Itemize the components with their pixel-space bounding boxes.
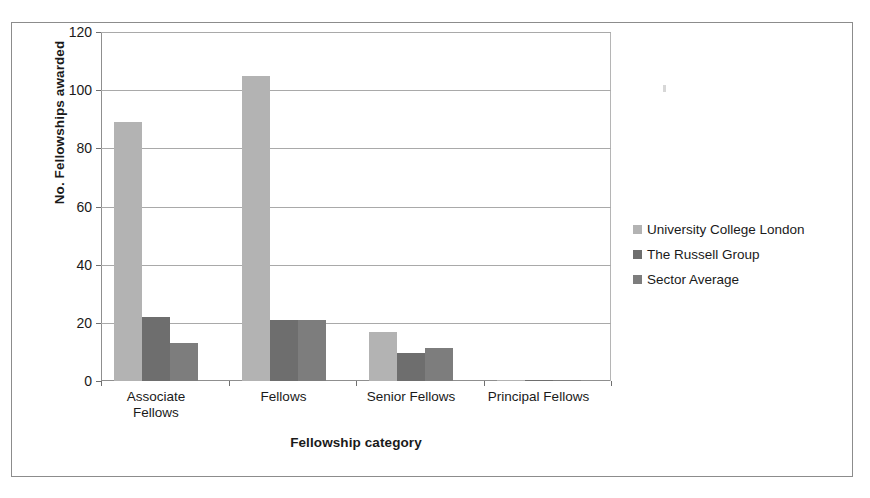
y-tick-label: 100 bbox=[69, 82, 92, 98]
bar bbox=[525, 380, 553, 382]
bar bbox=[553, 380, 581, 382]
y-tick-mark bbox=[96, 90, 101, 91]
y-tick-mark bbox=[96, 323, 101, 324]
y-tick-mark bbox=[96, 148, 101, 149]
x-tick-mark bbox=[484, 381, 485, 386]
legend-swatch bbox=[633, 225, 642, 234]
y-tick-label: 80 bbox=[76, 140, 92, 156]
gridline bbox=[101, 323, 611, 324]
x-category-label: Principal Fellows bbox=[488, 389, 589, 405]
bar bbox=[369, 332, 397, 381]
legend-item: University College London bbox=[633, 217, 805, 242]
legend-item: The Russell Group bbox=[633, 242, 805, 267]
bar bbox=[270, 320, 298, 381]
x-tick-mark bbox=[101, 381, 102, 386]
x-tick-mark bbox=[356, 381, 357, 386]
x-axis-title: Fellowship category bbox=[101, 435, 611, 450]
gridline bbox=[101, 148, 611, 149]
gridline bbox=[101, 90, 611, 91]
legend-item: Sector Average bbox=[633, 267, 805, 292]
y-axis-title: No. Fellowships awarded bbox=[52, 3, 67, 243]
y-tick-mark bbox=[96, 207, 101, 208]
legend-label: Sector Average bbox=[647, 272, 739, 287]
y-tick-label: 120 bbox=[69, 24, 92, 40]
gridline bbox=[101, 32, 611, 33]
bar bbox=[142, 317, 170, 381]
legend-swatch bbox=[633, 275, 642, 284]
y-tick-label: 40 bbox=[76, 257, 92, 273]
x-category-label: Senior Fellows bbox=[367, 389, 456, 405]
bar bbox=[170, 343, 198, 381]
bar bbox=[242, 76, 270, 381]
bar bbox=[497, 380, 525, 382]
bar bbox=[298, 320, 326, 381]
y-tick-label: 60 bbox=[76, 199, 92, 215]
scan-artifact-speck bbox=[663, 85, 666, 92]
plot-area: 020406080100120 bbox=[101, 32, 611, 381]
chart-frame: No. Fellowships awarded 020406080100120 … bbox=[11, 22, 853, 477]
bar bbox=[425, 348, 453, 381]
x-tick-mark bbox=[611, 381, 612, 386]
y-tick-label: 0 bbox=[84, 373, 92, 389]
y-tick-label: 20 bbox=[76, 315, 92, 331]
chart-legend: University College LondonThe Russell Gro… bbox=[633, 217, 805, 292]
y-tick-mark bbox=[96, 32, 101, 33]
bar bbox=[397, 353, 425, 381]
gridline bbox=[101, 207, 611, 208]
y-tick-mark bbox=[96, 265, 101, 266]
gridline bbox=[101, 265, 611, 266]
legend-label: The Russell Group bbox=[647, 247, 760, 262]
x-category-label: Fellows bbox=[261, 389, 307, 405]
legend-swatch bbox=[633, 250, 642, 259]
x-category-label: Associate Fellows bbox=[127, 389, 186, 421]
bar bbox=[114, 122, 142, 381]
legend-label: University College London bbox=[647, 222, 805, 237]
x-tick-mark bbox=[229, 381, 230, 386]
